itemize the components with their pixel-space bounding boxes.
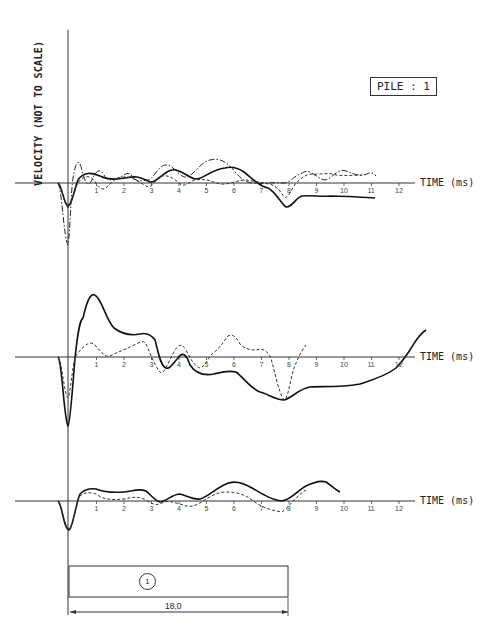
x-tick-label: 1 [95,187,99,194]
x-tick-label: 7 [260,187,264,194]
x-tick-label: 7 [260,361,264,368]
x-tick-label: 8 [287,187,291,194]
x-tick-label: 2 [122,361,126,368]
x-tick-label: 6 [232,361,236,368]
x-tick-label: 12 [395,361,403,368]
x-tick-label: 9 [315,361,319,368]
x-tick-label: 5 [205,361,209,368]
pile-body [69,566,288,597]
x-tick-label: 11 [368,505,375,512]
x-tick-label: 2 [122,505,126,512]
x-tick-label: 11 [368,187,375,194]
x-tick-label: 10 [340,187,348,194]
x-axis-label-middle: TIME (ms) [420,351,474,362]
x-tick-label: 8 [287,505,291,512]
x-tick-label: 12 [395,505,403,512]
pile-label: PILE : 1 [370,77,437,96]
x-tick-label: 1 [95,361,99,368]
x-tick-label: 6 [232,505,236,512]
x-tick-label: 4 [177,187,181,194]
x-axis-label-top: TIME (ms) [420,177,474,188]
x-tick-label: 5 [205,505,209,512]
x-tick-label: 3 [150,361,154,368]
y-axis-label: VELOCITY (NOT TO SCALE) [33,41,44,186]
x-tick-label: 10 [340,505,348,512]
x-tick-label: 9 [315,187,319,194]
x-tick-label: 3 [150,187,154,194]
x-tick-label: 2 [122,187,126,194]
pile-number-circle: 1 [139,573,156,590]
dimension-arrow-left [70,610,76,614]
x-tick-label: 7 [260,505,264,512]
trace-bottom-solid [58,481,340,530]
x-tick-label: 8 [287,361,291,368]
x-tick-label: 12 [395,187,403,194]
trace-top-dashdot [58,159,376,245]
x-tick-label: 11 [368,361,375,368]
x-tick-label: 4 [177,505,181,512]
x-tick-label: 9 [315,505,319,512]
pile-length-label: 18,0 [165,601,182,611]
x-tick-label: 10 [340,361,348,368]
x-tick-label: 5 [205,187,209,194]
x-tick-label: 6 [232,187,236,194]
x-tick-label: 1 [95,505,99,512]
x-tick-label: 4 [177,361,181,368]
x-tick-label: 3 [150,505,154,512]
dimension-arrow-right [282,610,288,614]
x-axis-label-bottom: TIME (ms) [420,495,474,506]
